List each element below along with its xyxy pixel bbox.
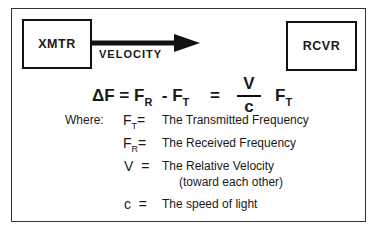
transmitter-label: XMTR — [38, 37, 75, 51]
definition-symbol: V = — [124, 158, 149, 174]
equals-sign: = — [119, 86, 129, 105]
where-label: Where: — [65, 113, 104, 127]
equals-sign: = — [141, 158, 149, 174]
definition-text: The Relative Velocity — [162, 159, 274, 173]
symbol: F — [123, 135, 132, 151]
term-ft: FT — [172, 86, 189, 105]
delta-f: ΔF — [92, 86, 115, 105]
definition-symbol: FT= — [123, 112, 145, 128]
symbol: F — [172, 86, 182, 105]
equals-sign: = — [137, 112, 145, 128]
definition-symbol: FR= — [123, 135, 146, 151]
receiver-label: RCVR — [303, 39, 340, 53]
definition-text: The Received Frequency — [162, 136, 296, 150]
equals-sign-2: = — [210, 86, 220, 106]
definition-note: (toward each other) — [179, 175, 283, 189]
subscript: T — [285, 96, 292, 108]
definition-text: The Transmitted Frequency — [162, 113, 309, 127]
fraction: V c — [237, 74, 261, 116]
symbol: F — [275, 86, 285, 105]
numerator: V — [237, 74, 261, 94]
definition-symbol: c = — [124, 196, 147, 212]
subscript: R — [132, 144, 139, 154]
subscript: T — [183, 96, 190, 108]
term-fr: FR — [134, 86, 152, 105]
equals-sign: = — [138, 135, 146, 151]
symbol: V — [124, 158, 133, 174]
equals-sign: = — [139, 196, 147, 212]
term-ft-2: FT — [275, 86, 292, 106]
definition-text: The speed of light — [162, 197, 257, 211]
velocity-label: VELOCITY — [99, 48, 162, 60]
subscript: T — [132, 121, 138, 131]
symbol: F — [123, 112, 132, 128]
minus-sign: - — [162, 86, 168, 105]
receiver-box: RCVR — [286, 21, 357, 71]
symbol: F — [134, 86, 144, 105]
transmitter-box: XMTR — [22, 19, 92, 69]
symbol: c — [124, 196, 131, 212]
subscript: R — [144, 96, 152, 108]
doppler-equation: ΔF = FR - FT — [92, 86, 189, 106]
